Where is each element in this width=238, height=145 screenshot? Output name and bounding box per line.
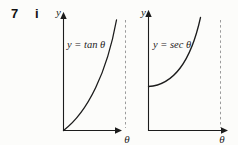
sec-curve (149, 18, 201, 87)
tan-y-axis-label: y (55, 6, 61, 18)
sec-curve-label: y = sec θ (152, 39, 191, 50)
sec-y-axis-label: y (140, 6, 146, 18)
sec-graph: y θ y = sec θ (140, 6, 226, 145)
tan-curve (64, 20, 117, 131)
problem-number: 7 (11, 6, 18, 21)
tan-curve-label: y = tan θ (66, 39, 105, 50)
sec-x-axis-label: θ (219, 133, 225, 145)
graphs-canvas: 7 i y θ y = tan θ y θ y = sec θ (0, 0, 238, 145)
tan-x-axis-label: θ (124, 133, 130, 145)
tan-graph: y θ y = tan θ (55, 6, 130, 145)
part-label: i (35, 6, 39, 21)
textbook-figure: 7 i y θ y = tan θ y θ y = sec θ (0, 0, 238, 145)
